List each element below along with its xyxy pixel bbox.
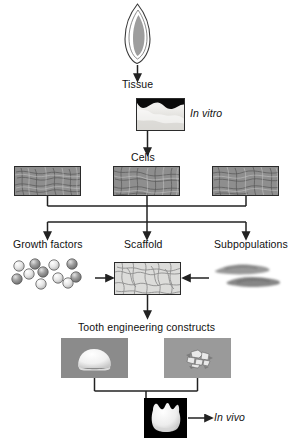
label-in-vitro: In vitro [190,108,222,119]
construct-photo-right [164,338,231,378]
in-vivo-photo-panel [144,398,187,438]
label-constructs: Tooth engineering constructs [78,322,215,333]
label-cells: Cells [131,152,155,163]
label-subpopulations: Subpopulations [214,239,288,250]
label-tissue: Tissue [122,79,153,90]
label-growth-factors: Growth factors [13,239,83,250]
cells-micrograph-panel-middle [113,166,180,196]
flow-connectors [0,0,298,445]
cells-micrograph-panel-right [212,166,279,196]
label-scaffold: Scaffold [124,239,163,250]
growth-factors-illustration [10,255,92,295]
tissue-micrograph-panel [136,98,185,131]
figure-canvas: Tissue In vitro Cells Growth factors Sca… [0,0,298,445]
cells-micrograph-panel-left [14,166,81,196]
scaffold-illustration [114,262,181,295]
tooth-incisor-illustration [113,3,161,65]
label-in-vivo: In vivo [214,412,245,423]
subpopulations-illustration [213,258,285,294]
construct-photo-left [61,338,128,378]
